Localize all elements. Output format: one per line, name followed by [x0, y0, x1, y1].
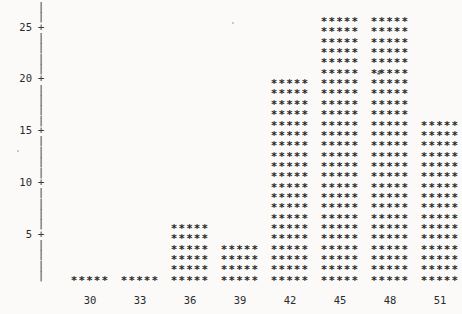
bar-row: ***** — [171, 276, 210, 286]
bar-row: ***** — [221, 276, 260, 286]
bar-30: ***** — [68, 276, 112, 286]
x-tick-label-33: 33 — [125, 294, 155, 306]
x-tick-label-30: 30 — [75, 294, 105, 306]
bar-row: ***** — [121, 276, 160, 286]
scan-speck — [232, 22, 234, 24]
x-axis-line: ----------------------------------------… — [36, 288, 441, 291]
x-tick-label-42: 42 — [275, 294, 305, 306]
bar-39: ******************** — [218, 245, 262, 286]
bar-36: ****************************** — [168, 224, 212, 286]
x-tick-label-45: 45 — [325, 294, 355, 306]
bar-row: ***** — [421, 276, 460, 286]
bar-row: ***** — [321, 276, 360, 286]
bar-51: ****************************************… — [418, 121, 462, 287]
bar-row: ***** — [271, 276, 310, 286]
bar-48: ****************************************… — [368, 17, 412, 286]
bar-42: ****************************************… — [268, 79, 312, 286]
x-tick-label-36: 36 — [175, 294, 205, 306]
bar-33: ***** — [118, 276, 162, 286]
stray-mark: # — [377, 70, 381, 77]
x-axis-tick-labels: 30 33 36 39 42 45 48 51 — [36, 294, 447, 312]
bar-row: ***** — [371, 276, 410, 286]
bar-row: ***** — [71, 276, 110, 286]
x-tick-label-48: 48 — [375, 294, 405, 306]
bars-layer: ***** ***** ****************************… — [0, 0, 447, 290]
scan-speck — [17, 150, 19, 152]
bar-45: ****************************************… — [318, 17, 362, 286]
x-tick-label-39: 39 — [225, 294, 255, 306]
x-tick-label-51: 51 — [425, 294, 455, 306]
